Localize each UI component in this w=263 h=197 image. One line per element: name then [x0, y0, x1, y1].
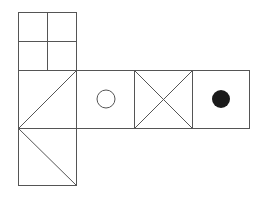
- face-left-triangle: [19, 71, 77, 129]
- face-filled-circle: [193, 71, 250, 129]
- face-bottom-diagonal: [19, 129, 77, 186]
- cube-net-diagram: [0, 0, 263, 197]
- hollow-circle-icon: [97, 90, 115, 108]
- face-hollow-circle: [77, 71, 135, 129]
- filled-circle-icon: [212, 90, 230, 108]
- face-cross: [135, 71, 193, 129]
- face-top-grid: [19, 13, 77, 71]
